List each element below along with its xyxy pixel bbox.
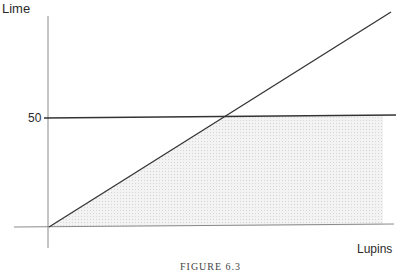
x-axis-label: Lupins: [357, 243, 392, 255]
feasible-region-shading: [49, 116, 383, 227]
figure-caption: FIGURE 6.3: [180, 262, 241, 272]
y-tick-50-label: 50: [28, 112, 41, 124]
y-axis-label: Lime: [2, 2, 30, 15]
